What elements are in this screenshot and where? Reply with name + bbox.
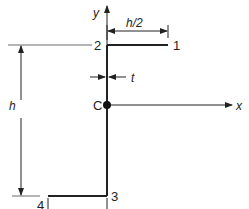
diagram-svg: y h/2 2 1 t C x h 3 4 h/2 [0,0,249,209]
y-axis-label: y [92,6,100,20]
thickness-label: t [131,71,135,85]
centroid-label: C [93,98,102,113]
z-section-diagram: y h/2 2 1 t C x h 3 4 h/2 [0,0,249,209]
point-3-label: 3 [111,189,118,204]
point-1-label: 1 [173,38,180,53]
point-2-label: 2 [94,38,101,53]
top-dim-label: h/2 [126,16,143,30]
x-axis-label: x [235,99,243,113]
height-label: h [9,99,16,113]
point-4-label: 4 [37,198,44,209]
centroid-dot [103,101,111,109]
